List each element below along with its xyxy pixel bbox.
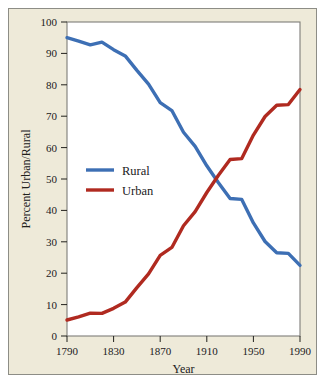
chart-page: 0102030405060708090100179018301870191019… — [0, 0, 331, 391]
x-tick-label: 1990 — [289, 345, 312, 357]
y-tick-label: 70 — [46, 110, 58, 122]
y-tick-label: 80 — [46, 79, 58, 91]
y-tick-label: 50 — [46, 173, 58, 185]
plot-area — [67, 22, 300, 336]
x-axis-title: Year — [172, 362, 194, 376]
y-axis-title: Percent Urban/Rural — [19, 129, 33, 229]
legend-label-rural: Rural — [122, 164, 150, 178]
x-tick-label: 1950 — [242, 345, 265, 357]
y-tick-label: 20 — [46, 267, 58, 279]
y-tick-label: 30 — [46, 236, 58, 248]
y-tick-label: 60 — [46, 142, 58, 154]
y-tick-label: 0 — [52, 330, 58, 342]
x-tick-label: 1790 — [56, 345, 79, 357]
y-tick-label: 100 — [41, 16, 58, 28]
y-tick-label: 10 — [46, 299, 58, 311]
legend-label-urban: Urban — [122, 184, 154, 198]
x-tick-label: 1830 — [103, 345, 126, 357]
x-tick-label: 1870 — [149, 345, 172, 357]
line-chart: 0102030405060708090100179018301870191019… — [0, 0, 331, 391]
y-tick-label: 90 — [46, 47, 58, 59]
y-tick-label: 40 — [46, 204, 58, 216]
x-tick-label: 1910 — [196, 345, 219, 357]
